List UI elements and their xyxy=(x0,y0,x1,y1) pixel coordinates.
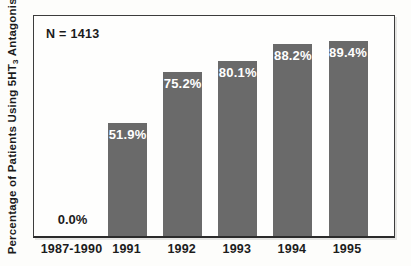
bar-1992: 75.2% xyxy=(163,72,202,236)
x-axis-tick-1995: 1995 xyxy=(333,242,362,256)
x-axis-tick-1987-1990: 1987-1990 xyxy=(41,242,103,256)
bar-1993: 80.1% xyxy=(218,61,257,236)
bar-value-label: 89.4% xyxy=(329,45,368,60)
y-axis-label-text: Percentage of Patients Using 5HT xyxy=(6,64,18,254)
bar-1995: 89.4% xyxy=(329,41,368,236)
x-axis-tick-1991: 1991 xyxy=(112,242,141,256)
bar-1991: 51.9% xyxy=(108,123,147,236)
x-axis-tick-1992: 1992 xyxy=(167,242,196,256)
y-axis-label-suffix: Antagonists xyxy=(6,0,18,59)
x-axis-tick-1994: 1994 xyxy=(278,242,307,256)
x-axis-tick-1993: 1993 xyxy=(222,242,251,256)
y-axis-label: Percentage of Patients Using 5HT3 Antago… xyxy=(6,0,20,254)
y-axis-label-subscript: 3 xyxy=(11,59,20,64)
bar-value-label: 75.2% xyxy=(163,76,202,91)
bar-value-label: 80.1% xyxy=(218,65,257,80)
bar-1994: 88.2% xyxy=(273,44,312,236)
plot-area: N = 1413 0.0%51.9%75.2%80.1%88.2%89.4% xyxy=(33,15,395,238)
bar-value-label: 88.2% xyxy=(273,48,312,63)
sample-size-annotation: N = 1413 xyxy=(46,27,99,41)
bar-value-label: 51.9% xyxy=(108,127,147,142)
zero-value-label: 0.0% xyxy=(58,212,88,227)
figure-canvas: Percentage of Patients Using 5HT3 Antago… xyxy=(0,0,411,266)
